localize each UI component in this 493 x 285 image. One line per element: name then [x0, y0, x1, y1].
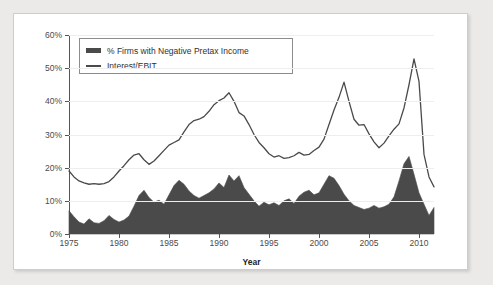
x-axis-tick-label: 1995: [260, 238, 279, 248]
y-axis-tick: [65, 35, 69, 36]
legend-item-interest-ebit: Interest/EBIT: [86, 58, 286, 73]
y-axis-tick: [65, 168, 69, 169]
x-axis-tick-label: 2005: [360, 238, 379, 248]
gridline: [69, 101, 434, 102]
gridline: [69, 35, 434, 36]
y-axis-tick: [65, 101, 69, 102]
x-axis-tick-label: 1990: [210, 238, 229, 248]
gridline: [69, 135, 434, 136]
y-axis-tick: [65, 201, 69, 202]
page-root: % Firms with Negative Pretax Income Inte…: [0, 0, 493, 285]
chart-figure: % Firms with Negative Pretax Income Inte…: [14, 14, 469, 271]
x-axis-tick-label: 1975: [60, 238, 79, 248]
gridline: [69, 168, 434, 169]
y-axis-tick: [65, 135, 69, 136]
x-axis-title: Year: [69, 257, 434, 267]
legend-item-negative-pretax-income: % Firms with Negative Pretax Income: [86, 43, 286, 58]
area-swatch-icon: [86, 48, 101, 53]
y-axis-tick-label: 30%: [45, 130, 62, 140]
gridline: [69, 68, 434, 69]
x-axis-tick-label: 2010: [410, 238, 429, 248]
y-axis-tick-label: 50%: [45, 63, 62, 73]
x-axis-tick-label: 2000: [310, 238, 329, 248]
x-axis-tick-label: 1985: [160, 238, 179, 248]
chart-card: % Firms with Negative Pretax Income Inte…: [13, 13, 468, 270]
gridline: [69, 201, 434, 202]
y-axis-tick-label: 10%: [45, 196, 62, 206]
y-axis-tick: [65, 68, 69, 69]
y-axis-tick-label: 20%: [45, 163, 62, 173]
y-axis-tick-label: 60%: [45, 30, 62, 40]
y-axis-tick-label: 40%: [45, 96, 62, 106]
legend-label: % Firms with Negative Pretax Income: [107, 46, 249, 56]
plot-area: % Firms with Negative Pretax Income Inte…: [69, 35, 434, 234]
x-axis-tick-label: 1980: [110, 238, 129, 248]
line-swatch-icon: [86, 65, 101, 67]
